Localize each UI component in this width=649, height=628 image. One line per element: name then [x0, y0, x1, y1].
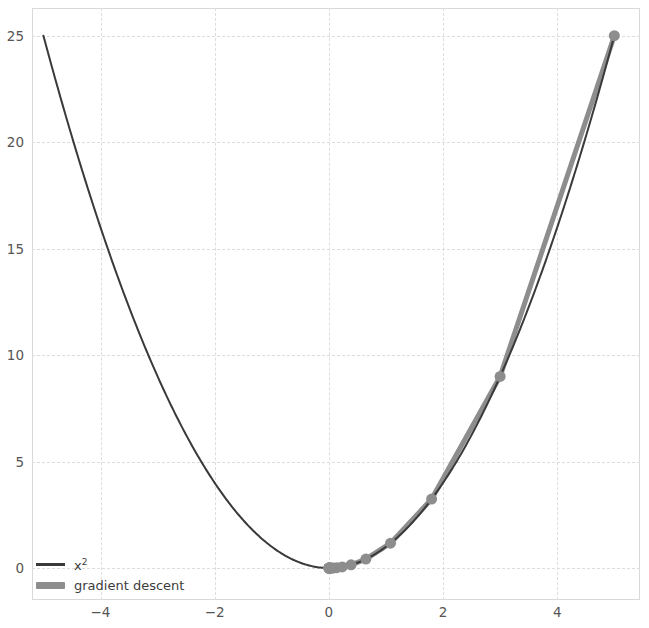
legend-swatch-gradient-descent-icon [36, 582, 65, 589]
legend-swatch-curve-icon [36, 563, 65, 566]
gradient-descent-marker [360, 554, 371, 565]
x-tick-label: −2 [205, 604, 225, 620]
gradient-descent-marker [609, 30, 620, 41]
y-tick-label: 10 [0, 347, 24, 363]
chart-canvas [32, 8, 640, 600]
legend-item-curve: x2 [36, 554, 184, 575]
gradient-descent-marker [426, 494, 437, 505]
y-tick-label: 5 [0, 454, 24, 470]
y-tick-label: 25 [0, 28, 24, 44]
legend-label-gradient-descent: gradient descent [74, 578, 184, 593]
y-tick-label: 0 [0, 560, 24, 576]
parabola-curve [43, 36, 614, 568]
x-tick-label: −4 [91, 604, 111, 620]
legend: x2 gradient descent [34, 552, 188, 598]
gradient-descent-line [329, 36, 614, 568]
gradient-descent-marker [385, 538, 396, 549]
plot-area [32, 8, 640, 600]
x-tick-label: 2 [439, 604, 448, 620]
legend-item-gradient-descent: gradient descent [36, 575, 184, 596]
gradient-descent-marker [323, 563, 334, 574]
chart-figure: 0510152025 −4−2024 x2 gradient descent [0, 0, 649, 628]
x-tick-label: 4 [553, 604, 562, 620]
legend-label-curve: x2 [74, 556, 87, 572]
x-tick-label: 0 [325, 604, 334, 620]
gradient-descent-markers [323, 30, 619, 573]
gradient-descent-marker [495, 371, 506, 382]
y-tick-label: 15 [0, 241, 24, 257]
y-tick-label: 20 [0, 134, 24, 150]
